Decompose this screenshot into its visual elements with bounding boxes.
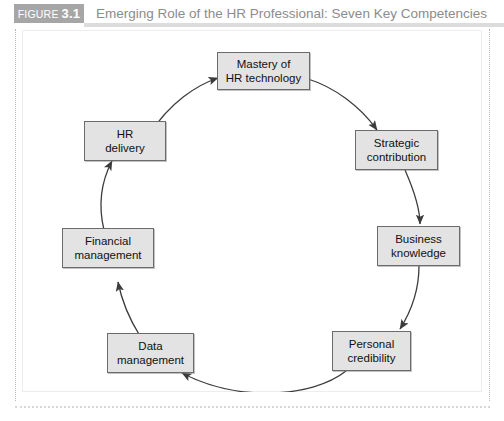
- node-strategic-label: Strategic contribution: [367, 136, 426, 165]
- node-personal-label: Personal credibility: [348, 337, 396, 366]
- figure-number-badge: FIGURE3.1: [14, 4, 84, 23]
- figure-caption: FIGURE3.1 Emerging Role of the HR Profes…: [14, 4, 490, 26]
- figure-title: Emerging Role of the HR Professional: Se…: [96, 4, 487, 23]
- figure-badge-number: 3.1: [62, 6, 81, 21]
- cycle-diagram: Mastery of HR technology Strategic contr…: [22, 30, 482, 392]
- arrow-strategic-to-business: [405, 170, 420, 224]
- arrow-data-to-financial: [118, 282, 140, 336]
- node-financial-management[interactable]: Financial management: [62, 228, 154, 268]
- dotted-rule-bottom: [15, 406, 490, 408]
- node-personal-credibility[interactable]: Personal credibility: [332, 331, 411, 371]
- node-mastery-label: Mastery of HR technology: [226, 57, 301, 86]
- node-hr-delivery[interactable]: HR delivery: [84, 121, 166, 161]
- caption-underline-rule: [84, 23, 504, 27]
- node-business-label: Business knowledge: [391, 232, 446, 261]
- node-financial-label: Financial management: [74, 234, 141, 263]
- arrow-personal-to-data: [182, 371, 346, 392]
- dotted-rule-left: [15, 29, 16, 401]
- node-data-management[interactable]: Data management: [107, 333, 194, 373]
- node-data-label: Data management: [117, 339, 184, 368]
- arrow-financial-to-hr: [101, 161, 112, 230]
- node-hr-label: HR delivery: [105, 127, 145, 156]
- node-business-knowledge[interactable]: Business knowledge: [377, 226, 460, 266]
- node-mastery-of-hr-technology[interactable]: Mastery of HR technology: [217, 52, 310, 90]
- figure-page: FIGURE3.1 Emerging Role of the HR Profes…: [0, 0, 504, 421]
- dotted-rule-right: [489, 29, 490, 401]
- node-strategic-contribution[interactable]: Strategic contribution: [355, 130, 438, 170]
- figure-badge-word: FIGURE: [18, 8, 59, 20]
- arrow-business-to-personal: [400, 266, 419, 329]
- arrow-mastery-to-strategic: [308, 79, 377, 130]
